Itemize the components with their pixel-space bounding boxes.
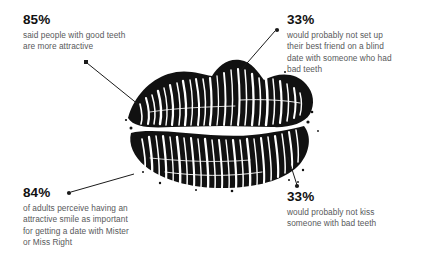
stat-callout-top-right: 33% would probably not set up their best… [287,13,429,76]
stat-value-84: 84% [23,186,188,200]
stat-description-top-left: said people with good teeth are more att… [23,30,183,53]
stat-value-85: 85% [23,13,183,27]
stat-value-33-kiss: 33% [287,190,429,204]
stat-description-bottom-right: would probably not kiss someone with bad… [287,207,429,230]
stat-description-top-right: would probably not set up their best fri… [287,30,429,76]
stat-callout-bottom-left: 84% of adults perceive having an attract… [23,186,188,249]
infographic-canvas: 85% said people with good teeth are more… [0,0,431,258]
stat-description-bottom-left: of adults perceive having an attractive … [23,203,188,249]
stat-value-33-blind-date: 33% [287,13,429,27]
stat-callout-bottom-right: 33% would probably not kiss someone with… [287,190,429,230]
stat-callout-top-left: 85% said people with good teeth are more… [23,13,183,53]
